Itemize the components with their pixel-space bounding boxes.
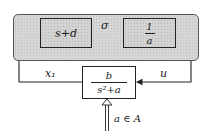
- parameter-label: a ∈ A: [114, 113, 141, 124]
- block2-denominator: a: [147, 35, 153, 46]
- block-one-over-a: 1 a: [123, 18, 176, 48]
- double-arrow-icon: [102, 99, 112, 105]
- plant-fraction: b s²+a: [91, 70, 127, 95]
- sigma-label: σ: [101, 19, 109, 32]
- block2-numerator: 1: [146, 21, 152, 32]
- u-label: u: [160, 67, 167, 80]
- block2-fraction: 1 a: [145, 21, 155, 46]
- x1-label: x₁: [45, 67, 56, 80]
- plant-block: b s²+a: [82, 66, 136, 99]
- block1-expression: s+d: [55, 27, 77, 40]
- plant-denominator: s²+a: [97, 84, 120, 95]
- block-s-plus-d: s+d: [40, 18, 92, 48]
- plant-numerator: b: [106, 70, 112, 81]
